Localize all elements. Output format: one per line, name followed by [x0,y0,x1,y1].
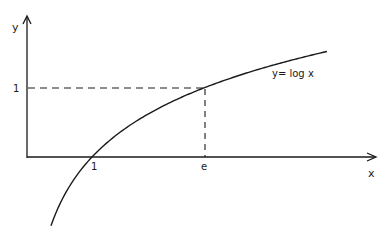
x-axis-label: x [368,167,375,180]
log-chart: y x 1 1 e y= log x [0,0,391,234]
curve-label: y= log x [272,68,314,79]
y-tick-1-label: 1 [13,83,19,94]
x-tick-1-label: 1 [91,161,97,172]
x-tick-e-label: e [201,161,207,172]
y-axis-label: y [12,21,19,34]
